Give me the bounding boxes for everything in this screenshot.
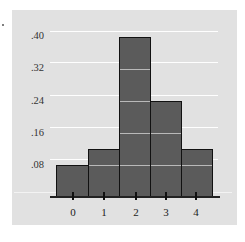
y-tick-label: .24 (18, 95, 44, 106)
bar-gridline (182, 165, 212, 166)
x-tick-label: 1 (96, 206, 112, 218)
x-tick (195, 192, 197, 200)
stray-mark (2, 24, 4, 26)
y-tick-label: .32 (18, 62, 44, 73)
x-tick (103, 192, 105, 200)
x-tick-label: 0 (65, 206, 81, 218)
bar-1 (88, 149, 120, 197)
x-tick-label: 2 (128, 206, 144, 218)
x-tick-label: 4 (188, 206, 204, 218)
bar-4 (181, 149, 213, 197)
bar-gridline (151, 165, 181, 166)
bar-2 (119, 37, 151, 197)
bar-3 (150, 101, 182, 197)
y-tick-label: .08 (18, 159, 44, 170)
y-tick-label: .16 (18, 127, 44, 138)
gridline (50, 31, 218, 32)
bar-gridline (89, 165, 119, 166)
x-tick (72, 192, 74, 200)
bar-gridline (120, 69, 150, 70)
x-tick-label: 3 (158, 206, 174, 218)
x-tick (135, 192, 137, 200)
bar-gridline (120, 101, 150, 102)
x-tick (165, 192, 167, 200)
y-tick-label: .40 (18, 30, 44, 41)
bar-gridline (151, 133, 181, 134)
bar-gridline (120, 133, 150, 134)
bar-gridline (120, 165, 150, 166)
